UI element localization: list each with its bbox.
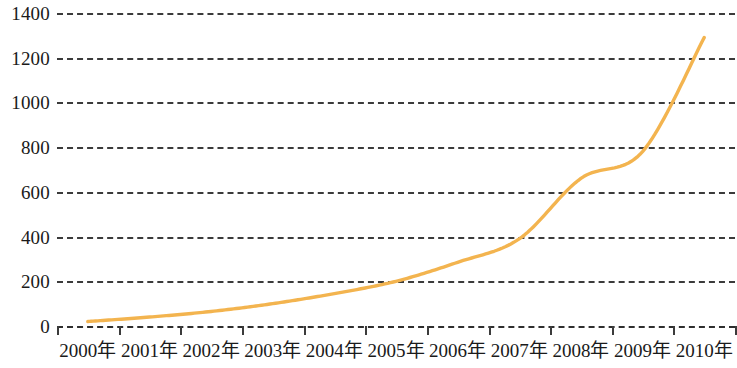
y-tick-label: 0: [0, 317, 50, 336]
x-tick-label: 2003年: [244, 337, 301, 365]
x-tick-label: 2007年: [491, 337, 548, 365]
x-tick-label: 2010年: [676, 337, 733, 365]
y-tick-label: 1400: [0, 4, 50, 23]
y-tick-label: 800: [0, 138, 50, 157]
y-tick-label: 200: [0, 272, 50, 291]
x-tick: [550, 326, 552, 335]
y-tick-label: 1200: [0, 48, 50, 67]
x-tick: [489, 326, 491, 335]
gridline-600: [57, 192, 735, 194]
gridline-800: [57, 147, 735, 149]
x-tick-label: 2006年: [429, 337, 486, 365]
x-tick: [304, 326, 306, 335]
x-tick: [242, 326, 244, 335]
y-tick-label: 1000: [0, 93, 50, 112]
x-tick: [180, 326, 182, 335]
x-tick-label: 2005年: [368, 337, 425, 365]
x-axis-labels: 2000年 2001年 2002年 2003年 2004年 2005年 2006…: [57, 337, 735, 367]
gridline-1400: [57, 13, 735, 15]
x-tick: [673, 326, 675, 335]
x-tick: [427, 326, 429, 335]
x-tick-label: 2000年: [59, 337, 116, 365]
x-tick-label: 2002年: [183, 337, 240, 365]
x-tick: [57, 326, 59, 335]
y-axis-labels: 1400 1200 1000 800 600 400 200 0: [0, 13, 50, 326]
gridline-200: [57, 281, 735, 283]
x-axis-ticks: [57, 326, 735, 335]
x-tick-label: 2001年: [121, 337, 178, 365]
x-tick: [119, 326, 121, 335]
plot-area: [57, 13, 735, 326]
x-tick-label: 2004年: [306, 337, 363, 365]
x-tick-label: 2008年: [552, 337, 609, 365]
x-tick-label: 2009年: [614, 337, 671, 365]
y-tick-label: 400: [0, 227, 50, 246]
gridline-1200: [57, 58, 735, 60]
x-tick: [612, 326, 614, 335]
x-tick: [365, 326, 367, 335]
gridline-1000: [57, 102, 735, 104]
y-tick-label: 600: [0, 182, 50, 201]
gridline-400: [57, 237, 735, 239]
line-chart: 1400 1200 1000 800 600 400 200 0: [0, 0, 737, 368]
